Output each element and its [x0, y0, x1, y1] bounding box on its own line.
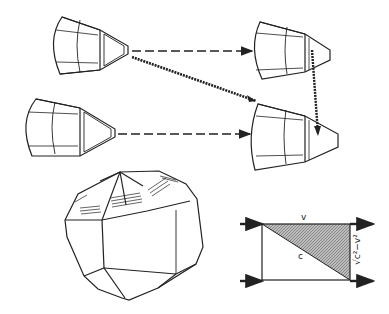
- capsule-bottom-left: [26, 99, 115, 156]
- polyhedron: [65, 171, 203, 300]
- label-c: c: [298, 251, 303, 261]
- diagram-canvas: v c √c²−v²: [0, 0, 389, 314]
- capsule-bottom-right: [251, 104, 338, 170]
- label-sqrt: √c²−v²: [352, 234, 362, 265]
- label-v: v: [301, 212, 307, 222]
- capsule-top-left: [53, 17, 128, 74]
- diagonal-arrow: [132, 57, 256, 102]
- vertical-arrow: [312, 50, 321, 136]
- capsule-top-right: [254, 22, 330, 79]
- velocity-triangle: v c √c²−v²: [240, 212, 373, 281]
